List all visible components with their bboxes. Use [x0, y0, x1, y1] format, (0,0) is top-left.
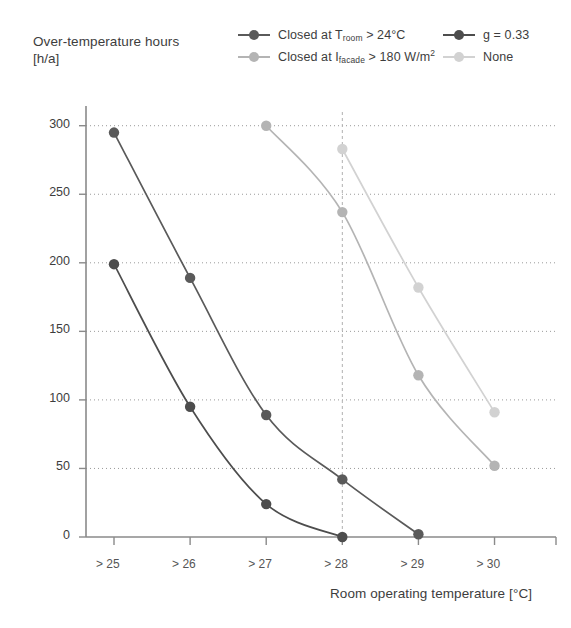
- y-axis-tick-label: 50: [30, 459, 70, 473]
- data-point[interactable]: [337, 144, 347, 154]
- y-axis-tick-label: 250: [30, 185, 70, 199]
- series-line: [114, 264, 342, 537]
- data-point[interactable]: [109, 127, 119, 137]
- data-point[interactable]: [337, 532, 347, 542]
- x-axis-tick-label: > 25: [96, 557, 156, 571]
- data-point[interactable]: [413, 282, 423, 292]
- plot-area: [0, 0, 571, 628]
- data-point[interactable]: [261, 410, 271, 420]
- data-point[interactable]: [185, 402, 195, 412]
- data-point[interactable]: [109, 259, 119, 269]
- y-axis-tick-label: 150: [30, 322, 70, 336]
- y-axis-tick-label: 300: [30, 117, 70, 131]
- series-line: [266, 126, 494, 466]
- chart-figure: Over-temperature hours [h/a] Closed at T…: [0, 0, 571, 628]
- x-axis-tick-label: > 30: [477, 557, 537, 571]
- data-point[interactable]: [489, 461, 499, 471]
- series-line: [114, 133, 418, 535]
- x-axis-tick-label: > 29: [400, 557, 460, 571]
- x-axis-tick-label: > 28: [324, 557, 384, 571]
- y-axis-tick-label: 0: [30, 528, 70, 542]
- data-point[interactable]: [413, 529, 423, 539]
- data-point[interactable]: [337, 474, 347, 484]
- x-axis-tick-label: > 27: [248, 557, 308, 571]
- data-point[interactable]: [261, 121, 271, 131]
- data-point[interactable]: [185, 273, 195, 283]
- y-axis-tick-label: 200: [30, 254, 70, 268]
- data-point[interactable]: [261, 499, 271, 509]
- y-axis-tick-label: 100: [30, 391, 70, 405]
- data-point[interactable]: [413, 370, 423, 380]
- data-point[interactable]: [337, 207, 347, 217]
- x-axis-title: Room operating temperature [°C]: [330, 586, 532, 601]
- data-point[interactable]: [489, 407, 499, 417]
- x-axis-tick-label: > 26: [172, 557, 232, 571]
